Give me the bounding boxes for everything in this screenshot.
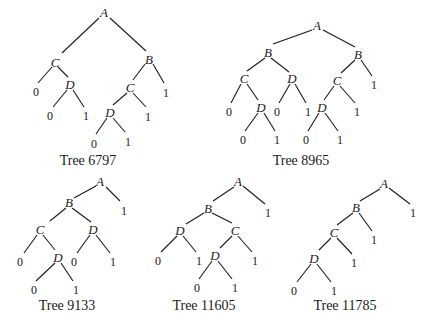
tree-leaf-0: 0 — [226, 105, 232, 119]
tree-node-a: A — [379, 176, 388, 191]
tree-edge — [96, 118, 107, 134]
tree-edge — [110, 18, 146, 51]
tree-edge — [36, 263, 55, 281]
tree-edge — [279, 84, 290, 103]
tree-leaf-1: 1 — [265, 206, 271, 220]
tree-edge — [73, 90, 84, 107]
tree-node-b: B — [352, 200, 360, 215]
tree-edge — [133, 93, 146, 107]
tree-node-d: D — [286, 71, 297, 86]
tree-leaf-0: 0 — [303, 133, 309, 147]
tree-leaf-1: 1 — [337, 133, 343, 147]
tree-node-c: C — [126, 80, 135, 95]
tree-leaf-0: 0 — [33, 85, 39, 99]
tree-edge — [161, 236, 177, 252]
tree-edge — [238, 236, 252, 252]
tree-edge — [72, 208, 91, 222]
tree-leaf-1: 1 — [196, 254, 202, 268]
tree-leaf-0: 0 — [31, 283, 37, 297]
tree-11785: A1BC1D101Tree 11785 — [291, 176, 416, 313]
tree-leaf-1: 1 — [110, 255, 116, 269]
tree-leaf-1: 1 — [410, 206, 416, 220]
tree-leaf-1: 1 — [331, 284, 337, 298]
tree-edge — [50, 208, 66, 221]
tree-edge — [212, 213, 232, 223]
tree-leaf-0: 0 — [71, 255, 77, 269]
tree-node-b: B — [145, 52, 153, 67]
tree-node-a: A — [233, 174, 242, 189]
tree-edge — [133, 64, 145, 80]
tree-edge — [213, 187, 234, 201]
tree-edge — [323, 30, 355, 47]
tree-edge — [153, 64, 164, 83]
tree-node-d: D — [104, 105, 115, 120]
tree-node-c: C — [240, 71, 249, 86]
tree-node-d: D — [64, 77, 75, 92]
tree-leaf-1: 1 — [73, 283, 79, 297]
tree-edge — [218, 261, 232, 279]
tree-9133: A1BCD0D0101Tree 9133 — [17, 174, 127, 313]
tree-node-a: A — [95, 174, 104, 189]
tree-node-c: C — [231, 223, 240, 238]
tree-edge — [360, 189, 380, 201]
tree-edge — [231, 84, 241, 103]
tree-node-d: D — [174, 223, 185, 238]
tree-node-a: A — [99, 5, 108, 20]
tree-edge — [58, 67, 68, 77]
tree-edge — [325, 113, 338, 131]
tree-caption: Tree 9133 — [39, 298, 96, 313]
tree-leaf-1: 1 — [163, 86, 169, 100]
tree-edge — [113, 118, 125, 132]
tree-edge — [247, 58, 265, 71]
tree-leaf-1: 1 — [371, 233, 377, 247]
tree-6797: ACB0D01C1D101Tree 6797 — [33, 5, 169, 168]
tree-node-c: C — [333, 73, 342, 88]
tree-caption: Tree 8965 — [273, 153, 330, 168]
tree-edge — [273, 30, 312, 44]
tree-leaf-0: 0 — [91, 137, 97, 151]
tree-edge — [359, 213, 372, 231]
tree-edge — [183, 236, 196, 252]
tree-node-c: C — [51, 55, 60, 70]
tree-node-b: B — [204, 201, 212, 216]
tree-leaf-0: 0 — [291, 284, 297, 298]
tree-11605: A1BDC01D101Tree 11605 — [155, 174, 271, 313]
tree-edge — [271, 58, 289, 72]
tree-edge — [361, 60, 372, 76]
tree-edge — [337, 213, 353, 225]
tree-leaf-0: 0 — [274, 105, 280, 119]
tree-edge — [43, 235, 55, 250]
tree-leaf-0: 0 — [155, 254, 161, 268]
tree-leaf-1: 1 — [351, 256, 357, 270]
tree-node-d: D — [316, 100, 327, 115]
tree-edge — [243, 186, 265, 204]
tree-edge — [389, 188, 410, 204]
tree-edge — [77, 235, 90, 253]
tree-edge — [247, 84, 258, 100]
tree-node-d: D — [255, 100, 266, 115]
tree-leaf-1: 1 — [305, 105, 311, 119]
tree-edge — [106, 187, 120, 201]
tree-leaf-0: 0 — [240, 133, 246, 147]
tree-leaf-1: 1 — [371, 78, 377, 92]
tree-node-c: C — [330, 225, 339, 240]
tree-leaf-1: 1 — [145, 110, 151, 124]
tree-edge — [96, 235, 110, 253]
tree-node-d: D — [52, 250, 63, 265]
tree-edge — [186, 213, 204, 224]
trees-root: ACB0D01C1D101Tree 6797ABBCDC10D01D10101T… — [17, 5, 416, 313]
tree-leaf-1: 1 — [125, 135, 131, 149]
tree-edge — [295, 84, 306, 103]
tree-node-d: D — [308, 251, 319, 266]
tree-caption: Tree 6797 — [60, 153, 117, 168]
tree-node-b: B — [65, 195, 73, 210]
tree-edge — [74, 186, 96, 198]
tree-node-d: D — [209, 248, 220, 263]
tree-leaf-0: 0 — [194, 281, 200, 295]
tree-edge — [337, 238, 352, 254]
tree-edge — [297, 264, 311, 282]
tree-node-d: D — [87, 222, 98, 237]
tree-caption: Tree 11605 — [172, 298, 235, 313]
tree-edge — [324, 86, 334, 100]
tree-leaf-1: 1 — [274, 133, 280, 147]
